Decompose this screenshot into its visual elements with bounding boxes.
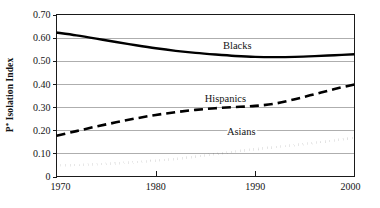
y-tick-label: 0.60 [33,32,51,43]
y-tick-label: 0.70 [33,9,51,20]
x-tick-label: 1980 [146,181,166,192]
y-axis-title-rest: Isolation Index [5,58,15,123]
svg-text:P* Isolation Index: P* Isolation Index [4,58,15,133]
x-tick-label: 1970 [51,181,71,192]
y-tick-label: 0.40 [33,79,51,90]
y-tick-label: 0.20 [33,125,51,136]
series-label-blacks: Blacks [223,40,252,51]
y-tick-label: 0.50 [33,55,51,66]
x-axis-tickmarks [157,171,256,177]
series-line-asians [57,138,355,166]
x-axis-tick-labels: 1970198019902000 [51,181,361,192]
y-tick-label: 0.30 [33,102,51,113]
y-tick-label: 0.10 [33,148,51,159]
x-tick-label: 1990 [245,181,265,192]
series-line-blacks [57,33,355,58]
y-axis-tick-labels: 00.100.200.300.400.500.600.70 [33,9,51,182]
chart-figure: 00.100.200.300.400.500.600.70 1970198019… [0,0,380,208]
chart-canvas: 00.100.200.300.400.500.600.70 1970198019… [0,0,380,208]
series-label-asians: Asians [227,126,256,137]
y-axis-title: P* Isolation Index [4,58,15,133]
series-label-hispanics: Hispanics [205,93,246,104]
x-tick-label: 2000 [341,181,361,192]
